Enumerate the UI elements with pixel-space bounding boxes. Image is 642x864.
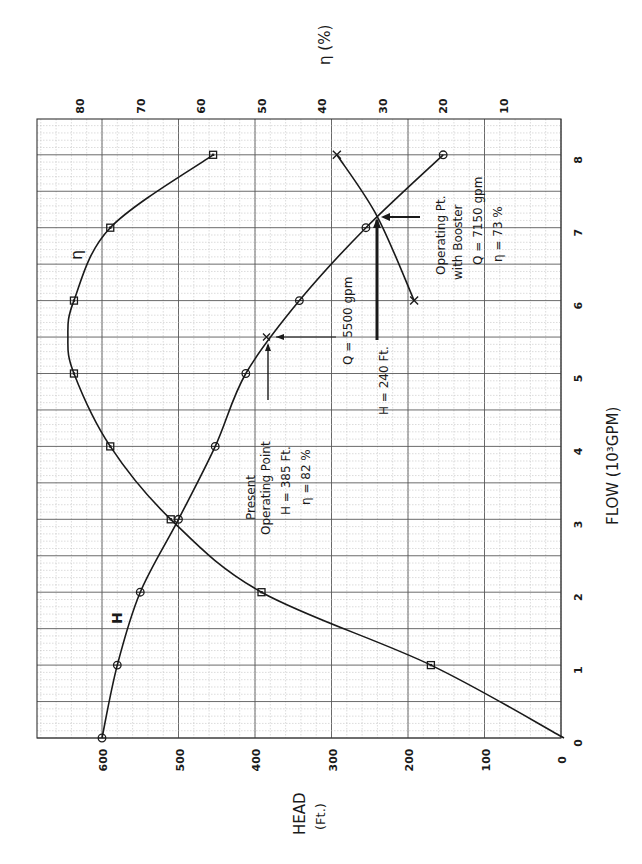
square-marker-center: [212, 154, 214, 156]
efficiency-tick-label: 10: [498, 98, 511, 114]
booster-flow-value: Q = 7150 gpm: [471, 177, 485, 265]
booster-efficiency-value: η = 73 %: [491, 206, 505, 262]
head-axis-unit: (Ft.): [313, 803, 328, 830]
present-operating-point-label: Present: [244, 475, 258, 520]
square-marker-center: [260, 591, 262, 593]
efficiency-tick-label: 20: [437, 98, 450, 114]
head-tick-label: 500: [174, 748, 187, 771]
head-axis-title: HEAD: [291, 792, 309, 835]
flow-tick-label: 5: [572, 375, 585, 383]
head-tick-label: 200: [403, 748, 416, 771]
flow-tick-label: 7: [572, 229, 585, 237]
booster-operating-point-label: Operating Pt.: [434, 195, 448, 275]
square-marker-center: [73, 372, 75, 374]
booster-point-arrowhead: [381, 213, 390, 221]
efficiency-tick-label: 80: [74, 98, 87, 114]
flow-tick-label: 0: [572, 739, 585, 747]
eta-curve-label: η: [67, 250, 86, 260]
h-curve-label: H: [109, 612, 125, 624]
efficiency-tick-label: 30: [377, 98, 390, 114]
present-head-value: H = 385 Ft.: [279, 446, 293, 515]
head-tick-label: 400: [250, 748, 263, 771]
flow-axis-title: FLOW (10³GPM): [604, 407, 622, 525]
pump-performance-chart: 0123456780100200300400500600102030405060…: [0, 0, 642, 864]
flow-tick-label: 1: [572, 666, 585, 674]
present-operating-point-label-2: Operating Point: [259, 441, 273, 535]
square-marker-center: [109, 445, 111, 447]
present-efficiency-value: η = 82 %: [299, 449, 313, 505]
flow-tick-label: 6: [572, 301, 585, 309]
efficiency-tick-label: 40: [316, 98, 329, 114]
square-marker-center: [73, 299, 75, 301]
q5500-arrowhead: [276, 334, 284, 340]
head-tick-label: 100: [480, 748, 493, 771]
flow-tick-label: 2: [572, 593, 585, 601]
booster-operating-point-label-2: with Booster: [451, 204, 465, 280]
q5500-label: Q = 5500 gpm: [341, 277, 355, 365]
axis-ticks: 0123456780100200300400500600102030405060…: [74, 98, 585, 771]
flow-tick-label: 4: [572, 447, 585, 455]
efficiency-tick-label: 60: [195, 98, 208, 114]
efficiency-axis-title: η (%): [316, 25, 334, 65]
efficiency-tick-label: 70: [135, 98, 148, 114]
head-tick-label: 300: [327, 748, 340, 771]
efficiency-tick-label: 50: [256, 98, 269, 114]
flow-tick-label: 3: [572, 520, 585, 528]
flow-tick-label: 8: [572, 156, 585, 164]
head-tick-label: 600: [97, 748, 110, 771]
square-marker-center: [109, 227, 111, 229]
h240-label: H = 240 Ft.: [377, 346, 391, 415]
square-marker-center: [170, 518, 172, 520]
square-marker-center: [430, 664, 432, 666]
head-tick-label: 0: [556, 756, 569, 764]
annotations: Present Operating Point H = 385 Ft. η = …: [67, 25, 622, 835]
